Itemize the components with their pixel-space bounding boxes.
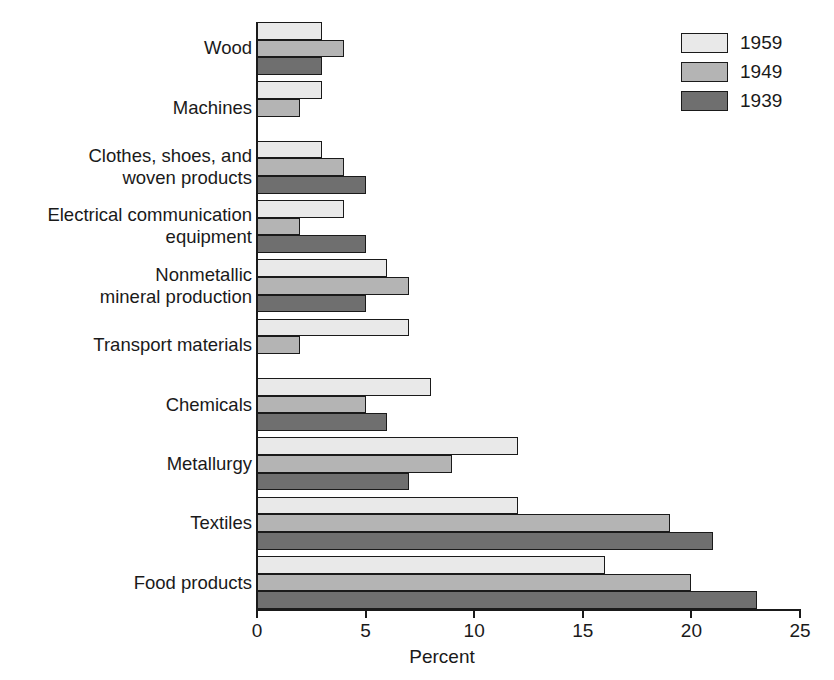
x-tick-mark [365, 609, 367, 618]
bar [257, 514, 670, 532]
bar [257, 81, 322, 99]
legend-label: 1959 [740, 32, 782, 54]
legend-swatch [681, 91, 728, 111]
category-label: Transport materials [4, 334, 252, 356]
bar [257, 473, 409, 491]
bar-group [257, 319, 800, 372]
category-label: Food products [4, 572, 252, 594]
legend-label: 1939 [740, 90, 782, 112]
bar [257, 591, 757, 609]
category-label: Machines [4, 97, 252, 119]
bar [257, 218, 300, 236]
legend-item: 1959 [681, 28, 782, 57]
bar-group [257, 437, 800, 490]
bar [257, 277, 409, 295]
legend-swatch [681, 33, 728, 53]
bar-group [257, 497, 800, 550]
x-tick-label: 5 [344, 620, 388, 642]
category-label: Textiles [4, 512, 252, 534]
bar [257, 40, 344, 58]
bar [257, 200, 344, 218]
x-tick-label: 0 [235, 620, 279, 642]
bar [257, 378, 431, 396]
x-tick-label: 20 [669, 620, 713, 642]
category-label: Nonmetallic mineral production [4, 264, 252, 308]
bar [257, 319, 409, 337]
bar [257, 556, 605, 574]
category-axis-labels: WoodMachinesClothes, shoes, and woven pr… [0, 0, 252, 611]
x-axis-title: Percent [0, 646, 834, 668]
x-tick-mark [473, 609, 475, 618]
bar [257, 455, 452, 473]
category-label: Wood [4, 37, 252, 59]
bar-group [257, 378, 800, 431]
x-tick-label: 10 [452, 620, 496, 642]
bar [257, 532, 713, 550]
bar [257, 396, 366, 414]
legend-item: 1939 [681, 86, 782, 115]
x-axis-line [256, 609, 801, 611]
bar-chart: WoodMachinesClothes, shoes, and woven pr… [0, 0, 834, 680]
x-tick-mark [256, 609, 258, 618]
bar-group [257, 200, 800, 253]
bar [257, 497, 518, 515]
x-tick-label: 25 [778, 620, 822, 642]
bar [257, 22, 322, 40]
x-tick-mark [690, 609, 692, 618]
bar [257, 336, 300, 354]
category-label: Electrical communication equipment [4, 204, 252, 248]
bar-group [257, 259, 800, 312]
bar [257, 99, 300, 117]
bar-group [257, 556, 800, 609]
x-axis-title-text: Percent [409, 646, 474, 667]
bar [257, 176, 366, 194]
category-label: Metallurgy [4, 453, 252, 475]
bar [257, 574, 691, 592]
bar [257, 235, 366, 253]
legend-label: 1949 [740, 61, 782, 83]
legend-item: 1949 [681, 57, 782, 86]
category-label: Chemicals [4, 394, 252, 416]
bar [257, 141, 322, 159]
x-tick-label: 15 [561, 620, 605, 642]
bar-group [257, 141, 800, 194]
bar [257, 259, 387, 277]
bar [257, 295, 366, 313]
legend: 195919491939 [681, 28, 782, 115]
bar [257, 437, 518, 455]
x-tick-mark [799, 609, 801, 618]
legend-swatch [681, 62, 728, 82]
bar [257, 158, 344, 176]
bar [257, 413, 387, 431]
bar [257, 57, 322, 75]
category-label: Clothes, shoes, and woven products [4, 145, 252, 189]
x-tick-mark [582, 609, 584, 618]
